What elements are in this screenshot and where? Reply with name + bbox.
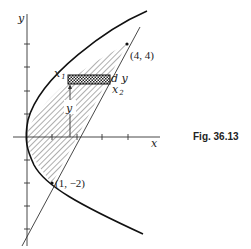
strip-rectangle: [68, 75, 110, 84]
y-height-label: y: [65, 102, 73, 115]
y-axis-label: y: [17, 12, 25, 25]
figure-canvas: y x (4, 4) (1, −2) x1 d y x2 y Fig. 36.1…: [0, 0, 251, 249]
x-axis-label: x: [151, 137, 158, 150]
point-label-4-4: (4, 4): [130, 49, 154, 62]
x2-label: x2: [112, 83, 124, 97]
point-1-neg2: [50, 181, 53, 184]
x1-label: x1: [54, 67, 66, 81]
point-label-1-neg2: (1, −2): [55, 177, 85, 190]
point-4-4: [125, 42, 128, 45]
shaded-region: [27, 44, 127, 184]
figure-caption: Fig. 36.13: [193, 131, 239, 142]
